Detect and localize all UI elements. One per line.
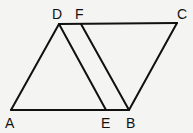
label-f: F (75, 6, 84, 22)
label-e: E (101, 115, 110, 131)
segment-bc (129, 23, 177, 110)
label-c: C (177, 6, 187, 22)
segment-ad (11, 24, 59, 110)
segment-de (59, 24, 106, 110)
label-d: D (52, 6, 62, 22)
segment-dc (59, 23, 177, 24)
label-b: B (126, 115, 135, 131)
label-a: A (5, 115, 15, 131)
segment-fb (81, 24, 129, 110)
geometry-diagram: D F C A E B (0, 0, 193, 133)
